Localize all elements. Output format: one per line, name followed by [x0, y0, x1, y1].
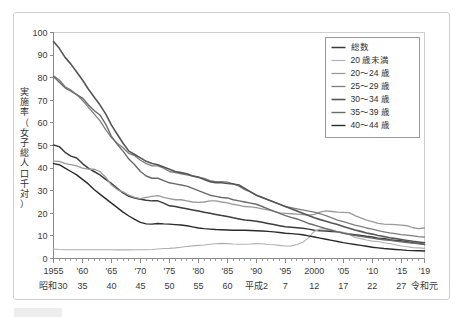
y-axis-title-char: （ — [20, 118, 29, 128]
x-tick-label: '90 — [251, 266, 263, 276]
x-tick-label: '05 — [337, 266, 349, 276]
y-tick-label: 40 — [37, 163, 47, 173]
y-tick-label: 10 — [37, 231, 47, 241]
x-tick-label: '70 — [135, 266, 147, 276]
x-era-label: 27 — [396, 281, 406, 291]
y-axis-title-char: 口 — [20, 169, 29, 179]
legend-label-2: 20～24 歳 — [351, 68, 390, 78]
x-tick-label: '10 — [366, 266, 378, 276]
legend-label-6: 40～44 歳 — [351, 120, 390, 130]
x-era-label: 12 — [309, 281, 319, 291]
y-tick-label: 30 — [37, 186, 47, 196]
x-era-label: 35 — [77, 281, 87, 291]
y-axis-title-char: 施 — [20, 96, 29, 107]
x-tick-label: '15 — [395, 266, 407, 276]
x-era-label: 平成2 — [245, 280, 268, 291]
y-axis-title-char: 率 — [20, 106, 29, 117]
y-tick-label: 70 — [37, 96, 47, 106]
y-tick-label: 100 — [32, 28, 47, 38]
legend: 総数20 歳未満20～24 歳25～29 歳30～34 歳35～39 歳40～4… — [326, 38, 420, 138]
y-tick-label: 90 — [37, 50, 47, 60]
x-tick-label: 2000 — [304, 266, 324, 276]
x-era-label: 50 — [164, 281, 174, 291]
y-tick-label: 20 — [37, 209, 47, 219]
y-axis-title-char: 対 — [20, 188, 29, 199]
y-axis-title-char: 女 — [20, 127, 29, 138]
x-era-label: 令和元 — [411, 280, 438, 291]
y-axis-title-char: 人 — [20, 158, 29, 168]
bottom-accent-bar — [14, 308, 62, 317]
y-axis-ticks: 0102030405060708090100 — [32, 28, 53, 264]
x-era-label: 22 — [367, 281, 377, 291]
x-tick-label: '95 — [280, 266, 292, 276]
y-axis-title-char: ） — [20, 199, 29, 209]
y-axis-title-char: 子 — [20, 138, 29, 148]
x-era-label: 17 — [338, 281, 348, 291]
x-tick-label: '60 — [77, 266, 89, 276]
x-tick-label: '19 — [419, 266, 431, 276]
y-tick-label: 50 — [37, 141, 47, 151]
x-tick-label: '85 — [222, 266, 234, 276]
x-axis-ticks: 1955昭和30'6035'6540'7045'7550'8055'8560'9… — [39, 259, 438, 291]
x-tick-label: '80 — [193, 266, 205, 276]
legend-label-3: 25～29 歳 — [351, 81, 390, 91]
y-axis-title-char: 千 — [20, 179, 29, 189]
x-era-label: 45 — [135, 281, 145, 291]
y-axis-title: 実施率（女子総人口千対） — [20, 86, 29, 209]
x-tick-label: '65 — [106, 266, 118, 276]
x-era-label: 40 — [106, 281, 116, 291]
y-axis-title-char: 総 — [20, 147, 29, 158]
legend-label-0: 総数 — [351, 42, 369, 52]
legend-label-5: 35～39 歳 — [351, 107, 390, 117]
x-era-label: 60 — [222, 281, 232, 291]
y-axis-title-char: 実 — [20, 86, 29, 97]
legend-label-1: 20 歳未満 — [351, 55, 390, 65]
y-tick-label: 0 — [42, 254, 47, 264]
x-era-label: 7 — [283, 281, 288, 291]
x-tick-label: '75 — [164, 266, 176, 276]
y-tick-label: 60 — [37, 118, 47, 128]
y-tick-label: 80 — [37, 73, 47, 83]
legend-label-4: 30～34 歳 — [351, 94, 390, 104]
x-era-label: 55 — [193, 281, 203, 291]
x-tick-label: 1955 — [43, 266, 63, 276]
x-era-label: 昭和30 — [39, 281, 67, 291]
